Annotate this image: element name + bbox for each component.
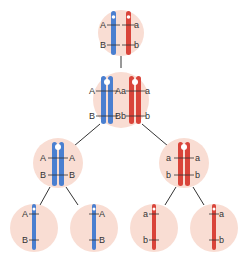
allele-label: A: [100, 20, 106, 30]
allele-label: a: [166, 153, 171, 163]
allele-label: b: [166, 170, 171, 180]
allele-label: a: [134, 20, 139, 30]
allele-label: a: [219, 209, 224, 219]
allele-label: a: [145, 86, 150, 96]
allele-label: Aa: [115, 86, 126, 96]
allele-label: b: [219, 235, 224, 245]
allele-label: B: [22, 235, 28, 245]
allele-label: b: [143, 235, 148, 245]
allele-label: A: [99, 209, 105, 219]
allele-label: A: [40, 153, 46, 163]
parent-cell: A B a b: [98, 10, 144, 56]
allele-label: B: [99, 235, 105, 245]
meiosis1-right-cell: a a b b: [159, 138, 209, 188]
allele-label: b: [145, 111, 150, 121]
allele-label: a: [143, 209, 148, 219]
allele-label: B: [89, 111, 95, 121]
gamete-cell: a b: [190, 204, 238, 252]
allele-label: A: [22, 209, 28, 219]
allele-label: b: [134, 40, 139, 50]
meiosis1-left-cell: A A B B: [33, 138, 83, 188]
allele-label: B: [40, 170, 46, 180]
allele-label: A: [69, 153, 75, 163]
replicated-cell: A Aa a B Bb b: [89, 72, 150, 128]
allele-label: Bb: [115, 111, 126, 121]
gamete-cell: a b: [130, 204, 178, 252]
allele-label: B: [100, 40, 106, 50]
allele-label: a: [195, 153, 200, 163]
meiosis-diagram: A B a b A Aa a B Bb b A A B B: [0, 0, 243, 260]
gamete-cell: A B: [70, 204, 118, 252]
allele-label: B: [69, 170, 75, 180]
allele-label: b: [195, 170, 200, 180]
allele-label: A: [89, 86, 95, 96]
gamete-cell: A B: [10, 204, 58, 252]
